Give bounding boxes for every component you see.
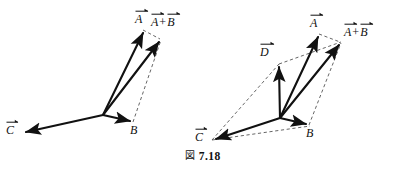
left-vector-b-shaft	[103, 115, 130, 121]
figure-container: A A + B B C	[0, 0, 406, 169]
right-label-vector-a-plus-b: A + B	[344, 21, 367, 38]
left-label-vector-b: B	[130, 124, 137, 136]
right-label-vector-a: A	[310, 12, 317, 29]
left-dashed-b-to-ab	[133, 40, 161, 122]
left-vector-a-shaft	[103, 33, 143, 115]
left-label-vector-a: A	[135, 8, 142, 25]
right-dashed-c-to-origin	[212, 126, 310, 140]
right-label-vector-d: D	[260, 41, 269, 58]
right-vector-d-shaft	[279, 67, 280, 118]
left-vector-c-shaft	[26, 115, 103, 132]
left-dashed-a-to-ab	[143, 30, 160, 39]
plus-sign: +	[351, 26, 360, 38]
right-vector-b-shaft	[280, 118, 306, 124]
left-label-vector-a-plus-b: A + B	[151, 11, 174, 28]
left-diagram	[26, 30, 161, 132]
right-vector-c-shaft	[216, 118, 280, 139]
right-dashed-b-to-ab	[309, 43, 341, 125]
left-label-vector-c: C	[6, 119, 14, 136]
right-dashed-a-to-ab	[319, 34, 340, 42]
figure-caption-mark: 図	[185, 147, 195, 162]
right-label-vector-b: B	[306, 127, 313, 139]
figure-caption: 図7.18	[0, 148, 406, 163]
plus-sign: +	[158, 16, 167, 28]
figure-caption-number: 7.18	[199, 150, 221, 162]
right-label-vector-c: C	[195, 126, 203, 143]
left-vector-a-plus-b-shaft	[103, 42, 159, 115]
right-diagram	[212, 34, 341, 140]
